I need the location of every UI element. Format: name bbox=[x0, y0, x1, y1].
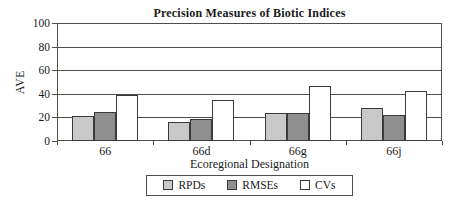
y-tick-label-40: 40 bbox=[18, 88, 50, 101]
bar-CVs-66d bbox=[212, 100, 234, 141]
bar-RMSEs-66 bbox=[94, 112, 116, 142]
bar-chart: Precision Measures of Biotic Indices AVE… bbox=[0, 0, 459, 206]
bar-RMSEs-66g bbox=[287, 113, 309, 141]
legend-item-RPDs: RPDs bbox=[163, 179, 205, 191]
legend-item-CVs: CVs bbox=[300, 179, 335, 191]
y-tick-label-20: 20 bbox=[18, 111, 50, 124]
chart-title: Precision Measures of Biotic Indices bbox=[57, 6, 442, 21]
bar-RPDs-66 bbox=[72, 116, 94, 141]
bar-RMSEs-66j bbox=[383, 115, 405, 141]
bar-CVs-66 bbox=[116, 95, 138, 141]
x-axis-title: Ecoregional Designation bbox=[57, 157, 442, 172]
legend-swatch-icon-RPDs bbox=[163, 180, 173, 190]
y-tick-label-100: 100 bbox=[18, 17, 50, 30]
legend: RPDsRMSEsCVs bbox=[57, 175, 442, 196]
bar-RPDs-66d bbox=[168, 122, 190, 141]
bar-CVs-66j bbox=[405, 91, 427, 141]
legend-item-RMSEs: RMSEs bbox=[227, 179, 278, 191]
legend-label-RPDs: RPDs bbox=[178, 179, 205, 191]
bar-CVs-66g bbox=[309, 86, 331, 141]
y-tick-label-60: 60 bbox=[18, 64, 50, 77]
legend-swatch-icon-CVs bbox=[300, 180, 310, 190]
bar-RMSEs-66d bbox=[190, 119, 212, 141]
y-tick-label-0: 0 bbox=[18, 135, 50, 148]
legend-label-RMSEs: RMSEs bbox=[242, 179, 278, 191]
legend-swatch-icon-RMSEs bbox=[227, 180, 237, 190]
x-tick-mark-4 bbox=[442, 141, 443, 145]
bar-RPDs-66j bbox=[361, 108, 383, 141]
bar-RPDs-66g bbox=[265, 113, 287, 141]
legend-box: RPDsRMSEsCVs bbox=[146, 175, 352, 196]
y-tick-label-80: 80 bbox=[18, 41, 50, 54]
legend-label-CVs: CVs bbox=[315, 179, 335, 191]
